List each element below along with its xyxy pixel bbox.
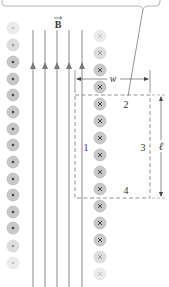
width-dimension: w	[75, 70, 150, 93]
right-current-column	[94, 30, 106, 280]
field-arrow-up-icon	[66, 62, 72, 69]
field-arrow-up-icon	[42, 62, 48, 69]
field-arrow-up-icon	[54, 62, 60, 69]
side-1-label: 1	[84, 142, 89, 153]
field-arrow-up-icon	[79, 62, 85, 69]
magnetic-field-diagram: B	[0, 0, 169, 287]
length-label: ℓ	[159, 140, 164, 152]
width-label: w	[110, 73, 117, 84]
field-label: B	[54, 17, 62, 31]
field-lines	[30, 30, 85, 287]
side-4-label: 4	[124, 185, 129, 196]
callout-bubble	[2, 0, 160, 96]
side-2-label: 2	[124, 99, 129, 110]
length-dimension: ℓ	[152, 95, 166, 198]
left-current-column	[7, 22, 19, 269]
side-3-label: 3	[141, 142, 146, 153]
field-arrow-up-icon	[30, 62, 36, 69]
field-label-b: B	[55, 19, 62, 30]
callout-pointer	[128, 9, 143, 96]
